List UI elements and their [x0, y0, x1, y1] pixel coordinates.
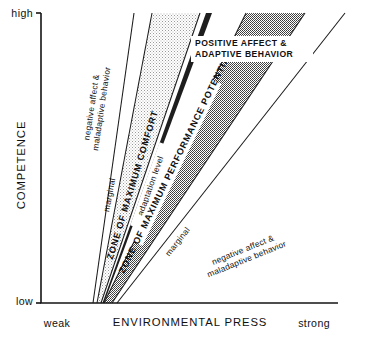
press-competence-diagram: high low COMPETENCE ENVIRONMENTAL PRESS … [0, 0, 365, 342]
x-axis-title: ENVIRONMENTAL PRESS [113, 316, 268, 328]
positive-affect-line1: POSITIVE AFFECT & [195, 38, 287, 48]
x-axis-strong-label: strong [298, 317, 330, 329]
y-axis-low-label: low [16, 295, 33, 307]
y-axis-high-label: high [11, 7, 33, 19]
positive-affect-callout-group: POSITIVE AFFECT & ADAPTIVE BEHAVIOR [191, 36, 313, 62]
positive-affect-line2: ADAPTIVE BEHAVIOR [195, 49, 294, 59]
lower-marginal-label-group: marginal [163, 225, 192, 258]
diagram-canvas: high low COMPETENCE ENVIRONMENTAL PRESS … [0, 0, 365, 342]
lower-maladaptive-label-group: negative affect & maladaptive behavior [202, 229, 288, 279]
y-axis-title: COMPETENCE [15, 121, 27, 210]
lower-marginal-label: marginal [163, 225, 192, 258]
upper-maladaptive-label-group: negative affect & maladaptive behavior [80, 65, 112, 152]
x-axis-weak-label: weak [43, 317, 71, 329]
